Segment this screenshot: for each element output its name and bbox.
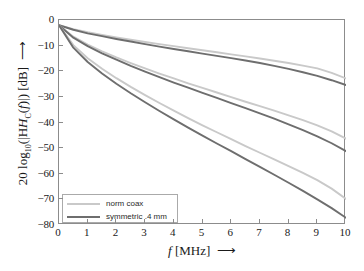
y-axis-title-f: f bbox=[15, 105, 30, 109]
y-tick-mark bbox=[58, 45, 63, 46]
y-tick-mark bbox=[58, 96, 63, 97]
x-tick-label: 10 bbox=[340, 226, 351, 238]
y-axis-title: 20 log10(|HHC(f)|) [dB] ⟶ bbox=[15, 4, 33, 224]
y-tick-mark bbox=[58, 147, 63, 148]
x-tick-label: 5 bbox=[199, 226, 205, 238]
x-axis-title-f: f bbox=[168, 243, 172, 258]
chart-figure: 0−10−20−30−40−50−60−70−80 20 log10(|HHC(… bbox=[0, 0, 364, 271]
x-tick-label: 3 bbox=[141, 226, 147, 238]
x-tick-label: 1 bbox=[84, 226, 90, 238]
y-axis-arrow-icon: ⟶ bbox=[15, 42, 30, 60]
x-tick-label: 2 bbox=[113, 226, 119, 238]
y-axis-title-sub2: C bbox=[24, 113, 33, 118]
x-tick-mark bbox=[202, 219, 203, 224]
x-tick-label: 6 bbox=[227, 226, 233, 238]
series-line-cable-2-norm-coax bbox=[59, 25, 346, 139]
x-tick-mark bbox=[316, 219, 317, 224]
x-tick-label: 9 bbox=[314, 226, 320, 238]
chart-legend: norm coaxsymmetric .4 mm bbox=[62, 194, 178, 223]
x-tick-mark bbox=[230, 219, 231, 224]
legend-swatch bbox=[67, 216, 100, 218]
legend-swatch bbox=[67, 203, 100, 205]
x-tick-mark bbox=[144, 219, 145, 224]
x-axis-arrow-icon: ⟶ bbox=[217, 243, 235, 258]
y-tick-mark bbox=[58, 198, 63, 199]
x-tick-label: 8 bbox=[285, 226, 291, 238]
y-tick-mark bbox=[58, 122, 63, 123]
y-axis-title-tail: )|) [dB] bbox=[15, 67, 30, 105]
x-tick-mark bbox=[115, 219, 116, 224]
x-tick-label: 7 bbox=[256, 226, 262, 238]
y-tick-mark bbox=[58, 70, 63, 71]
y-axis-title-sub: 10 bbox=[24, 144, 33, 152]
x-tick-label: 0 bbox=[55, 226, 61, 238]
x-axis-title: f [MHz] ⟶ bbox=[58, 243, 345, 259]
legend-label: norm coax bbox=[106, 199, 143, 208]
y-axis-title-h: H bbox=[15, 119, 30, 128]
x-axis-title-unit: [MHz] bbox=[175, 243, 210, 258]
x-tick-mark bbox=[87, 219, 88, 224]
y-tick-mark bbox=[58, 173, 63, 174]
y-axis-title-mid: (|H bbox=[15, 128, 30, 144]
legend-entry: norm coax bbox=[67, 198, 173, 209]
x-tick-mark bbox=[259, 219, 260, 224]
x-tick-mark bbox=[288, 219, 289, 224]
legend-entry: symmetric .4 mm bbox=[67, 211, 173, 222]
y-axis-title-prefix: 20 log bbox=[15, 152, 30, 185]
x-tick-label: 4 bbox=[170, 226, 176, 238]
x-tick-mark bbox=[173, 219, 174, 224]
